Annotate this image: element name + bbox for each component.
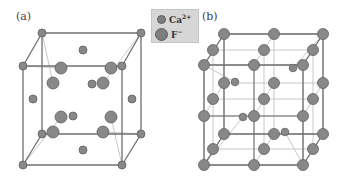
legend-item-ca: Ca2+ [155,12,191,26]
edge-line [122,33,141,66]
f-ion [249,111,260,122]
f-ion [208,144,219,155]
panel-a-atoms [19,29,145,169]
f-ion [308,45,319,56]
ca-ion [281,128,289,136]
f-ion [219,78,230,89]
f-ion [259,94,270,105]
crystal-structure-figure: (a) (b) Ca2+ F− [0,0,347,180]
f-ion [269,129,280,140]
f-ion [259,144,270,155]
ca-ion [88,80,96,88]
ca-ion [69,112,77,120]
edge-line [23,134,42,165]
f-ion [47,126,59,138]
ca-ion [19,161,27,169]
f-ion [308,94,319,105]
ca-ion [79,46,87,54]
f-ion [318,78,329,89]
ca-ion [128,95,136,103]
f-ion [199,60,210,71]
f-ion [249,160,260,171]
ca-ion [231,78,239,86]
f-ion [55,62,67,74]
f-ion [318,129,329,140]
f-ion [97,126,109,138]
f-ion [318,29,329,40]
f-ion [298,60,309,71]
edge-line [42,33,53,83]
ca-ion [19,62,27,70]
f-ion [199,160,210,171]
ca-ion [38,29,46,37]
edge-line [111,117,122,165]
legend: Ca2+ F− [151,9,199,43]
f-ion [269,78,280,89]
ca-ion [79,146,87,154]
f-ion [105,111,117,123]
ca-ion [239,113,247,121]
edge-line [122,134,141,165]
f-ion [208,94,219,105]
f-ion [199,111,210,122]
f-ion [219,29,230,40]
f-ion [208,45,219,56]
panel-label-b: (b) [202,10,218,23]
legend-item-f: F− [155,27,182,41]
f-ion [298,111,309,122]
ca-ion [38,130,46,138]
f-ion [259,45,270,56]
legend-label-ca: Ca2+ [169,13,191,25]
f-ion [105,62,117,74]
f-ion [269,29,280,40]
ca-ion-icon [157,15,166,24]
ca-ion [118,62,126,70]
panel-b-atoms [199,29,329,171]
ca-ion [137,29,145,37]
f-ion [47,77,59,89]
legend-label-f: F− [171,28,182,40]
ca-ion [137,130,145,138]
edge-line [23,33,42,66]
panel-label-a: (a) [16,10,31,23]
ca-ion [29,95,37,103]
f-ion-icon [155,28,168,41]
f-ion [97,77,109,89]
f-ion [219,129,230,140]
ca-ion [289,64,297,72]
ca-ion [118,161,126,169]
f-ion [249,60,260,71]
f-ion [308,144,319,155]
f-ion [55,111,67,123]
f-ion [298,160,309,171]
